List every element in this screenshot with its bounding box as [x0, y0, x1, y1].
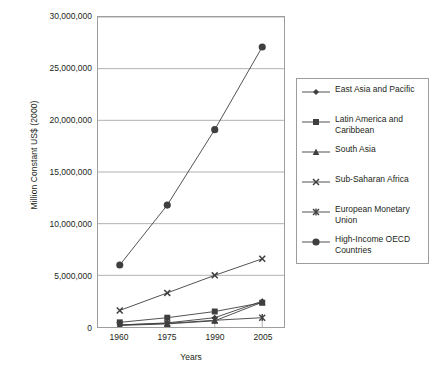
legend-marker-circle-icon — [301, 235, 331, 249]
data-point-circle — [312, 238, 319, 245]
data-point-square — [313, 119, 319, 125]
series-line — [120, 47, 262, 265]
data-point-square — [212, 309, 218, 315]
series-line — [120, 259, 262, 311]
y-axis-tick-label: 0 — [24, 324, 92, 333]
y-axis-tick-labels: 05,000,00010,000,00015,000,00020,000,000… — [24, 16, 92, 328]
data-point-circle — [116, 261, 123, 268]
x-axis-title: Years — [97, 352, 285, 362]
legend-marker-triangle-icon — [301, 145, 331, 159]
y-axis-tick-label: 25,000,000 — [24, 64, 92, 73]
legend-item[interactable]: South Asia — [297, 144, 428, 174]
legend-marker-diamond-icon — [301, 85, 331, 99]
legend-item[interactable]: High-Income OECD Countries — [297, 234, 428, 264]
data-point-circle — [259, 43, 266, 50]
legend-item[interactable]: Latin America and Caribbean — [297, 114, 428, 144]
legend-item[interactable]: European Monetary Union — [297, 204, 428, 234]
y-axis-tick-label: 5,000,000 — [24, 272, 92, 281]
legend-marker-asterisk-icon — [301, 205, 331, 219]
legend-label: East Asia and Pacific — [331, 84, 428, 95]
plot-area — [97, 16, 285, 328]
legend: East Asia and PacificLatin America and C… — [296, 78, 429, 264]
y-axis-tick-label: 20,000,000 — [24, 116, 92, 125]
plot-svg — [98, 17, 284, 327]
data-point-circle — [164, 201, 171, 208]
data-point-square — [164, 315, 170, 321]
series-line — [120, 318, 262, 325]
data-point-x — [117, 307, 123, 313]
x-axis-tick-label: 1975 — [143, 333, 191, 342]
x-axis-tick-label: 1990 — [191, 333, 239, 342]
y-axis-tick-label: 30,000,000 — [24, 12, 92, 21]
series-sub-saharan-africa — [117, 256, 265, 314]
data-point-x — [164, 290, 170, 296]
legend-label: South Asia — [331, 144, 428, 155]
series-line — [120, 301, 262, 325]
data-point-circle — [211, 126, 218, 133]
legend-label: Sub-Saharan Africa — [331, 174, 428, 185]
legend-label: High-Income OECD Countries — [331, 234, 428, 256]
legend-marker-x-icon — [301, 175, 331, 189]
data-point-diamond — [313, 89, 319, 95]
legend-label: European Monetary Union — [331, 204, 428, 226]
series-line — [120, 303, 262, 323]
line-chart: Million Constant US$ (2000) 05,000,00010… — [0, 0, 435, 388]
series-south-asia — [117, 299, 266, 327]
legend-item[interactable]: Sub-Saharan Africa — [297, 174, 428, 204]
legend-item[interactable]: East Asia and Pacific — [297, 84, 428, 114]
y-axis-tick-label: 15,000,000 — [24, 168, 92, 177]
x-axis-tick-labels: 1960197519902005 — [97, 333, 285, 347]
x-axis-tick-label: 2005 — [239, 333, 287, 342]
y-axis-tick-label: 10,000,000 — [24, 220, 92, 229]
series-high-income-oecd-countries — [116, 43, 266, 268]
legend-label: Latin America and Caribbean — [331, 114, 428, 136]
x-axis-tick-label: 1960 — [95, 333, 143, 342]
legend-marker-square-icon — [301, 115, 331, 129]
data-point-x — [259, 256, 265, 262]
